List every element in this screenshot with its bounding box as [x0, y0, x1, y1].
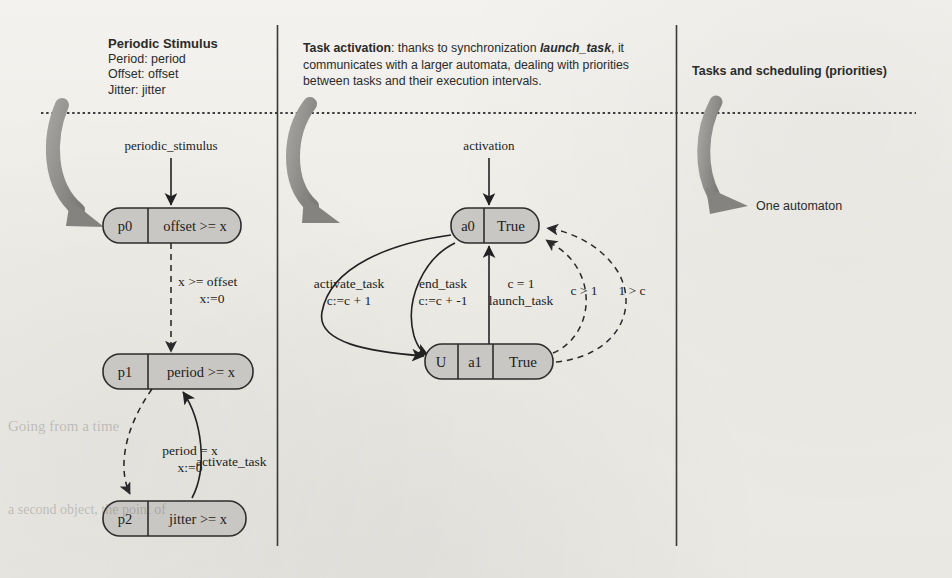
left-automaton-graph: [103, 158, 253, 536]
middle-panel-sync-name: launch_task: [540, 41, 611, 55]
node-label-a1-urgent: U: [436, 354, 447, 370]
label-periodic-stimulus: periodic_stimulus: [124, 138, 217, 153]
edge-label-p0-p1-update: x:=0: [200, 291, 225, 306]
edge-label-launch-sync: launch_task: [489, 293, 554, 308]
edge-label-launch-guard: c = 1: [507, 276, 534, 291]
gray-swoosh-arrow-left: [53, 105, 104, 227]
gray-swoosh-arrow-right: [704, 102, 748, 214]
ghost-text-line-a: Going from a time: [8, 418, 119, 435]
edge-label-activate-task: activate_task: [314, 276, 385, 291]
edge-label-activate-task-update: c:=c + 1: [327, 293, 371, 308]
node-label-p2-invariant: jitter >= x: [168, 511, 228, 527]
label-activation: activation: [463, 138, 515, 153]
node-label-p1-name: p1: [118, 364, 133, 380]
right-panel-title: Tasks and scheduling (priorities): [692, 64, 887, 78]
middle-panel-body-1: : thanks to synchronization: [391, 41, 540, 55]
node-label-a0-name: a0: [461, 218, 475, 234]
edge-label-1-greater-c: 1 > c: [618, 283, 645, 298]
edge-p1-p2: [124, 389, 152, 494]
left-panel-title: Periodic Stimulus: [108, 36, 218, 52]
edge-label-p2-p1-guard: activate_task: [196, 454, 267, 469]
middle-panel-title: Task activation: [303, 41, 391, 55]
edge-label-p0-p1-guard: x >= offset: [178, 274, 237, 289]
node-label-p0-name: p0: [118, 218, 133, 234]
node-label-a0-invariant: True: [497, 218, 525, 234]
right-panel-annotation: One automaton: [756, 199, 842, 213]
left-panel-line-period: Period: period: [108, 52, 218, 68]
gray-swoosh-arrow-middle: [293, 104, 340, 223]
diagram-text-layer: periodic_stimulus p0 offset >= x x >= of…: [118, 138, 646, 527]
node-label-p1-invariant: period >= x: [167, 364, 236, 380]
edge-label-end-task-update: c:=c + -1: [419, 293, 468, 308]
edge-label-end-task: end_task: [419, 276, 467, 291]
left-panel-line-jitter: Jitter: jitter: [108, 83, 218, 99]
left-panel-header: Periodic Stimulus Period: period Offset:…: [108, 36, 218, 98]
ghost-text-line-b: a second object, the point of: [8, 500, 166, 520]
node-label-a1-name: a1: [468, 354, 482, 370]
middle-panel-header: Task activation: thanks to synchronizati…: [303, 40, 668, 90]
left-panel-line-offset: Offset: offset: [108, 67, 218, 83]
node-label-p0-invariant: offset >= x: [163, 218, 227, 234]
edge-label-c-greater-1: c > 1: [570, 283, 597, 298]
middle-automaton-graph: [322, 158, 626, 379]
node-label-a1-invariant: True: [509, 354, 537, 370]
diagram-canvas: periodic_stimulus p0 offset >= x x >= of…: [0, 0, 952, 578]
